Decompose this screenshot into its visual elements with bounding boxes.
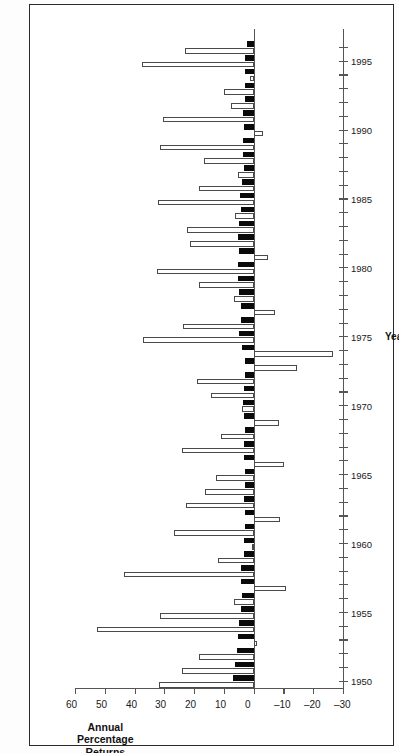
bar-dividend-returns xyxy=(245,69,253,75)
bar-dividend-returns xyxy=(244,496,254,502)
value-axis-tick xyxy=(164,688,165,694)
years-axis-tick xyxy=(339,405,348,406)
bar-total-returns xyxy=(186,503,254,509)
bar-total-returns xyxy=(97,627,254,633)
years-axis-label: 1970 xyxy=(351,401,372,412)
bar-dividend-returns xyxy=(239,620,254,626)
bar-dividend-returns xyxy=(237,648,254,654)
bar-total-returns xyxy=(163,117,254,123)
years-axis-tick xyxy=(339,102,348,103)
years-axis-tick xyxy=(339,584,348,585)
years-axis-tick xyxy=(339,515,348,516)
value-axis-tick xyxy=(105,688,106,694)
bar-total-returns xyxy=(250,76,254,82)
bar-dividend-returns xyxy=(245,83,253,89)
bar-total-returns xyxy=(224,89,254,95)
bar-total-returns xyxy=(143,338,254,344)
bar-total-returns xyxy=(254,420,279,426)
bar-total-returns xyxy=(124,572,253,578)
figure-page: Figure 1.3 Dividend and Total Returns 60… xyxy=(0,0,399,753)
years-axis-tick xyxy=(339,488,348,489)
bar-dividend-returns xyxy=(239,331,254,337)
years-axis-tick xyxy=(339,419,348,420)
years-axis-tick xyxy=(339,61,348,62)
bar-dividend-returns xyxy=(238,234,254,240)
years-axis-tick xyxy=(339,74,348,75)
years-axis-tick xyxy=(339,364,348,365)
bar-total-returns xyxy=(211,393,254,399)
bar-total-returns xyxy=(182,668,253,674)
bar-total-returns xyxy=(254,462,284,468)
value-axis-label: –30 xyxy=(334,699,351,710)
bar-dividend-returns xyxy=(239,221,254,227)
bar-dividend-returns xyxy=(245,372,254,378)
bar-dividend-returns xyxy=(242,345,253,351)
years-axis-label: 1995 xyxy=(351,56,372,67)
years-axis-tick xyxy=(339,447,348,448)
bar-dividend-returns xyxy=(241,207,254,213)
bar-dividend-returns xyxy=(241,565,254,571)
value-axis-title-line: Returns xyxy=(77,746,134,753)
bar-total-returns xyxy=(252,544,254,550)
bar-total-returns xyxy=(160,145,254,151)
years-axis-tick xyxy=(339,281,348,282)
bar-total-returns xyxy=(221,434,254,440)
bar-total-returns xyxy=(160,613,254,619)
value-axis-label: 0 xyxy=(245,699,251,710)
bar-total-returns xyxy=(254,365,298,371)
bar-dividend-returns xyxy=(247,41,254,47)
bar-total-returns xyxy=(254,131,264,137)
bar-dividend-returns xyxy=(240,193,253,199)
bar-dividend-returns xyxy=(244,455,254,461)
years-axis-tick xyxy=(339,502,348,503)
years-axis-tick xyxy=(339,626,348,627)
value-axis-label: –10 xyxy=(274,699,291,710)
years-axis-tick xyxy=(339,681,348,682)
years-axis-tick xyxy=(339,185,348,186)
years-axis-label: 1975 xyxy=(351,332,372,343)
value-axis-title-line: Percentage xyxy=(77,733,134,745)
bar-total-returns xyxy=(254,586,286,592)
bar-total-returns xyxy=(187,227,254,233)
bar-dividend-returns xyxy=(244,165,254,171)
bar-total-returns xyxy=(254,255,269,261)
bar-total-returns xyxy=(174,530,254,536)
years-axis-tick xyxy=(339,571,348,572)
bar-dividend-returns xyxy=(244,124,254,130)
value-axis-title-line: Annual xyxy=(77,721,134,733)
bar-total-returns xyxy=(234,599,254,605)
value-axis-tick xyxy=(224,688,225,694)
years-axis-tick xyxy=(339,295,348,296)
years-axis-tick xyxy=(339,474,348,475)
bar-total-returns xyxy=(216,475,253,481)
bar-total-returns xyxy=(199,654,254,660)
bar-total-returns xyxy=(254,310,275,316)
value-axis-label: 20 xyxy=(185,699,196,710)
value-axis-tick xyxy=(283,688,284,694)
bar-dividend-returns xyxy=(245,97,254,103)
years-axis-tick xyxy=(339,612,348,613)
years-axis-tick xyxy=(339,350,348,351)
years-axis-label: 1990 xyxy=(351,125,372,136)
years-axis-tick xyxy=(339,557,348,558)
years-axis-tick xyxy=(339,240,348,241)
bar-dividend-returns xyxy=(243,152,253,158)
years-axis-tick xyxy=(339,171,348,172)
bar-total-returns xyxy=(190,241,254,247)
years-axis-label: 1950 xyxy=(351,676,372,687)
value-axis-title: AnnualPercentageReturns xyxy=(77,721,134,753)
years-axis-tick xyxy=(339,378,348,379)
years-axis-tick xyxy=(339,254,348,255)
years-axis-label: 1985 xyxy=(351,194,372,205)
bar-total-returns xyxy=(254,351,333,357)
bar-total-returns xyxy=(157,269,253,275)
years-axis-tick xyxy=(339,226,348,227)
value-axis-tick xyxy=(313,688,314,694)
bar-dividend-returns xyxy=(244,538,254,544)
years-axis-tick xyxy=(339,267,348,268)
bar-dividend-returns xyxy=(243,138,254,144)
bar-total-returns xyxy=(204,158,254,164)
bar-dividend-returns xyxy=(244,441,254,447)
bar-dividend-returns xyxy=(235,662,253,668)
years-axis-title: Years xyxy=(385,331,399,342)
